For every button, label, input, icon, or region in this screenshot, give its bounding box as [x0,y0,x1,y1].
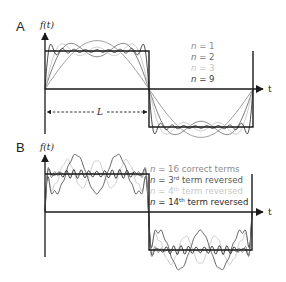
fourier-square-wave-figure: A f(t) t L n = 1 n = 2 n = 3 n = 9 B f(t… [0,0,286,282]
panel-b-x-axis-label: t [268,207,272,217]
panel-a-label: A [16,19,25,34]
panel-b-y-axis-label: f(t) [39,142,54,152]
legend-b-item-3: n = 14th term reversed [150,197,248,207]
legend-a-item-1: n = 2 [191,52,215,62]
panel-a-y-axis-label: f(t) [39,20,54,30]
panel-b: B f(t) t n = 16 correct terms n = 3rd te… [16,140,272,270]
legend-b-item-2: n = 4th term reversed [150,186,243,196]
panel-b-legend: n = 16 correct terms n = 3rd term revers… [150,164,248,207]
panel-a: A f(t) t L n = 1 n = 2 n = 3 n = 9 [16,19,272,137]
legend-a-item-2: n = 3 [191,63,215,73]
panel-a-x-axis-label: t [268,84,272,94]
panel-a-legend: n = 1 n = 2 n = 3 n = 9 [191,41,215,84]
legend-a-item-3: n = 9 [191,74,215,84]
legend-b-item-0: n = 16 correct terms [150,164,240,174]
legend-a-item-0: n = 1 [191,41,215,51]
legend-b-item-1: n = 3rd term reversed [150,175,243,185]
period-label: L [96,107,103,117]
panel-b-label: B [16,140,25,155]
